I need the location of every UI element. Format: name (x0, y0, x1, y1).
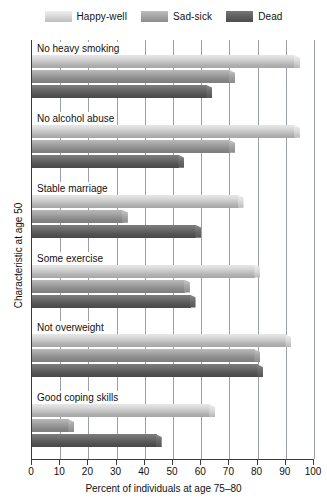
legend-swatch-icon (226, 11, 253, 22)
bar-group: Not overweight (32, 319, 314, 389)
bar-body (32, 125, 295, 138)
category-label: No alcohol abuse (36, 112, 117, 125)
x-axis-tick (172, 460, 173, 465)
bar-cap (285, 334, 291, 347)
bar-cap (238, 195, 244, 208)
bar-body (32, 140, 230, 153)
x-axis-tick-label: 70 (223, 466, 234, 477)
legend-label: Happy-well (77, 11, 127, 22)
x-axis-tick (87, 460, 88, 465)
bar-cap (209, 404, 215, 417)
bar-cap (190, 295, 196, 308)
bar-body (32, 70, 230, 83)
bar-cap (156, 434, 162, 447)
bar-happy-well (32, 334, 291, 347)
category-label: Some exercise (36, 252, 106, 265)
bar-dead (32, 434, 162, 447)
x-axis-tick-label: 100 (305, 466, 322, 477)
x-axis-tick-label: 10 (54, 466, 65, 477)
bar-cap (68, 419, 74, 432)
x-axis-tick (228, 460, 229, 465)
bar-body (32, 225, 196, 238)
x-axis-tick-label: 0 (28, 466, 34, 477)
bar-body (32, 195, 239, 208)
bar-body (32, 434, 157, 447)
bar-body (32, 280, 185, 293)
x-axis-tick-label: 20 (82, 466, 93, 477)
bar-cap (294, 125, 300, 138)
x-axis-tick (31, 460, 32, 465)
bar-group: Stable marriage (32, 180, 314, 250)
bar-sad-sick (32, 210, 128, 223)
x-axis-tick (116, 460, 117, 465)
bar-sad-sick (32, 70, 235, 83)
bar-cap (195, 225, 201, 238)
category-label: Stable marriage (36, 182, 111, 195)
chart-legend: Happy-well Sad-sick Dead (0, 0, 327, 32)
bar-sad-sick (32, 140, 235, 153)
category-label: Not overweight (36, 321, 107, 334)
bar-happy-well (32, 55, 300, 68)
category-label: No heavy smoking (36, 42, 122, 55)
bar-body (32, 295, 191, 308)
bar-body (32, 404, 210, 417)
legend-label: Dead (258, 11, 282, 22)
x-axis-tick-label: 60 (195, 466, 206, 477)
bar-body (32, 85, 207, 98)
bar-body (32, 210, 123, 223)
x-axis-tick (59, 460, 60, 465)
x-axis-tick (144, 460, 145, 465)
x-axis-tick-label: 80 (251, 466, 262, 477)
bar-sad-sick (32, 349, 260, 362)
legend-entry-happy-well: Happy-well (45, 11, 127, 22)
bar-happy-well (32, 125, 300, 138)
x-axis-tick (285, 460, 286, 465)
bar-dead (32, 155, 184, 168)
bar-body (32, 334, 286, 347)
x-axis-tick (200, 460, 201, 465)
bar-happy-well (32, 195, 244, 208)
bar-cap (229, 70, 235, 83)
bar-cap (178, 155, 184, 168)
bar-happy-well (32, 265, 260, 278)
bar-cap (254, 265, 260, 278)
legend-swatch-icon (141, 11, 168, 22)
bar-sad-sick (32, 280, 190, 293)
bar-happy-well (32, 404, 215, 417)
bar-cap (184, 280, 190, 293)
bar-group: Some exercise (32, 250, 314, 320)
plot-area: No heavy smokingNo alcohol abuseStable m… (31, 40, 314, 460)
bar-group: No alcohol abuse (32, 110, 314, 180)
gridline (314, 40, 315, 459)
x-axis-tick-labels: 0102030405060708090100 (31, 466, 313, 480)
legend-swatch-icon (45, 11, 72, 22)
x-axis-tick-label: 90 (279, 466, 290, 477)
bar-cap (257, 364, 263, 377)
x-axis-tick-label: 30 (110, 466, 121, 477)
bar-body (32, 155, 179, 168)
legend-entry-sad-sick: Sad-sick (141, 11, 212, 22)
bar-body (32, 419, 69, 432)
bar-dead (32, 295, 196, 308)
bar-cap (294, 55, 300, 68)
x-axis-tick (257, 460, 258, 465)
bar-dead (32, 85, 212, 98)
x-axis-tick-label: 40 (138, 466, 149, 477)
bar-body (32, 364, 258, 377)
bar-cap (254, 349, 260, 362)
bar-body (32, 349, 255, 362)
bar-groups: No heavy smokingNo alcohol abuseStable m… (32, 40, 314, 459)
bar-cap (229, 140, 235, 153)
bar-dead (32, 364, 263, 377)
y-axis-title: Characteristic at age 50 (13, 146, 24, 366)
category-label: Good coping skills (36, 391, 121, 404)
bar-body (32, 265, 255, 278)
x-axis-tick (313, 460, 314, 465)
legend-entry-dead: Dead (226, 11, 282, 22)
bar-sad-sick (32, 419, 74, 432)
bar-cap (206, 85, 212, 98)
bar-body (32, 55, 295, 68)
bar-group: No heavy smoking (32, 40, 314, 110)
bar-cap (122, 210, 128, 223)
x-axis-title: Percent of individuals at age 75–80 (0, 483, 327, 494)
